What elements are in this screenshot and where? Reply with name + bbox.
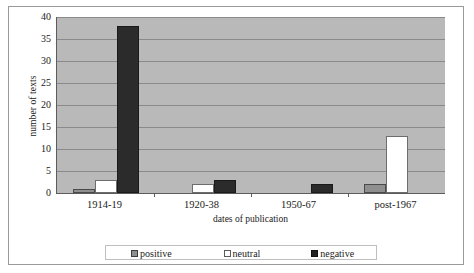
y-axis-tick-label: 0 (25, 188, 51, 198)
x-axis-tick (251, 193, 252, 197)
x-axis-category-label: 1950-67 (250, 199, 347, 211)
x-axis-tick (154, 193, 155, 197)
legend-label: neutral (233, 248, 261, 259)
y-axis-tick-label: 20 (25, 100, 51, 110)
bar-neutral-1920-38 (192, 184, 214, 193)
y-axis-tick-label: 40 (25, 12, 51, 22)
legend-label: negative (320, 248, 354, 259)
x-axis-category-label: 1914-19 (56, 199, 153, 211)
bar-group (348, 17, 445, 193)
legend-swatch-positive-icon (131, 250, 138, 257)
legend-item-negative: negative (287, 247, 378, 260)
y-axis-tick-label: 15 (25, 122, 51, 132)
y-axis-tick-label: 30 (25, 56, 51, 66)
bar-negative-1950-67 (311, 184, 333, 193)
x-axis-category-labels: 1914-191920-381950-67post-1967 (56, 199, 445, 213)
bar-negative-1920-38 (214, 180, 236, 193)
bar-group (154, 17, 251, 193)
bar-positive-post-1967 (364, 184, 386, 193)
bar-group (251, 17, 348, 193)
bar-positive-1914-19 (73, 189, 95, 193)
bar-neutral-1914-19 (95, 180, 117, 193)
chart-plot-region: number of texts 0510152025303540 1914-19… (9, 7, 465, 233)
x-axis-tick (348, 193, 349, 197)
bar-group (57, 17, 154, 193)
x-axis-category-label: 1920-38 (153, 199, 250, 211)
legend-label: positive (140, 248, 172, 259)
x-axis-category-label: post-1967 (347, 199, 444, 211)
y-axis-tick-label: 5 (25, 166, 51, 176)
legend-swatch-negative-icon (311, 250, 318, 257)
x-axis-title: dates of publication (56, 214, 445, 224)
legend-swatch-neutral-icon (224, 250, 231, 257)
bar-neutral-post-1967 (386, 136, 408, 193)
y-axis-tick-labels: 0510152025303540 (25, 17, 51, 193)
y-axis-tick-label: 10 (25, 144, 51, 154)
chart-legend: positiveneutralnegative (105, 245, 377, 260)
chart-figure: number of texts 0510152025303540 1914-19… (8, 6, 464, 265)
bar-negative-1914-19 (117, 26, 139, 193)
plot-area (56, 17, 445, 194)
y-axis-tick-label: 35 (25, 34, 51, 44)
legend-item-positive: positive (106, 247, 197, 260)
y-axis-tick-label: 25 (25, 78, 51, 88)
legend-item-neutral: neutral (197, 247, 288, 260)
